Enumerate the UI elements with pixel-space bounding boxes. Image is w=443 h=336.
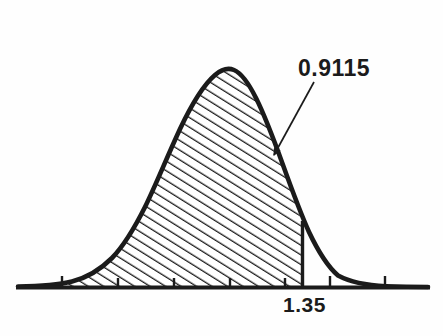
x-axis-tick-label-1-35: 1.35 (283, 293, 326, 317)
annotation-leader-line (274, 82, 314, 155)
distribution-plot (0, 0, 443, 336)
normal-distribution-figure: 0.9115 1.35 (0, 0, 443, 336)
area-value-label: 0.9115 (298, 55, 370, 82)
